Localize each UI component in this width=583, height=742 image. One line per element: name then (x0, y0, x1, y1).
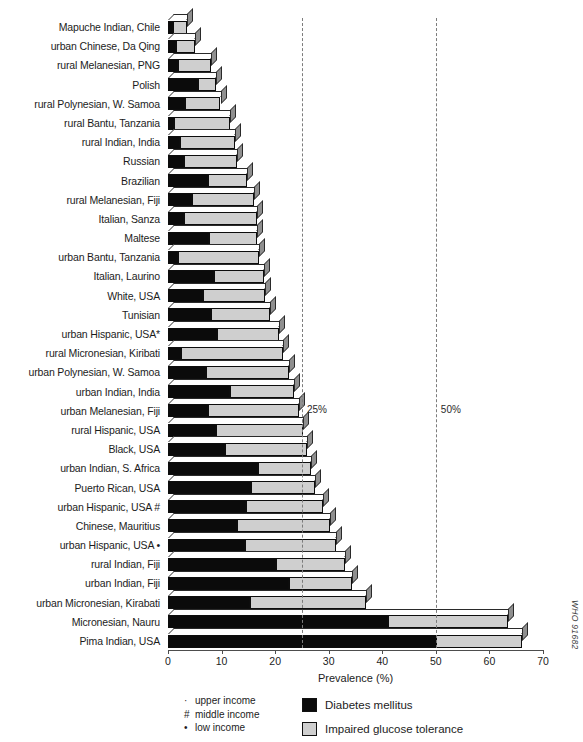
category-axis-labels: Mapuche Indian, Chileurban Chinese, Da Q… (0, 18, 164, 651)
x-tick-label: 40 (376, 655, 388, 667)
bar-top-face (168, 590, 372, 596)
bar-top-face (168, 340, 289, 346)
bar-segment-diabetes (168, 500, 246, 513)
x-tick (329, 650, 330, 654)
category-label: Italian, Sanza (0, 210, 164, 229)
chart-row (168, 18, 568, 37)
bar-segment-diabetes (168, 40, 176, 53)
bar-top-face (168, 283, 271, 289)
bar-segment-igt (185, 97, 220, 110)
category-label: urban Micronesian, Kirabati (0, 594, 164, 613)
bar-top-face (168, 532, 342, 538)
category-label: urban Hispanic, USA • (0, 536, 164, 555)
series-legend: Diabetes mellitusImpaired glucose tolera… (302, 693, 463, 741)
stacked-bar (168, 251, 259, 264)
reference-line-label: 25% (307, 404, 327, 415)
bar-segment-igt (203, 289, 265, 302)
x-tick-label: 0 (165, 655, 171, 667)
x-tick-label: 50 (430, 655, 442, 667)
bar-top-face (168, 398, 305, 404)
bar-segment-diabetes (168, 270, 214, 283)
bar-top-face (168, 264, 270, 270)
bar-right-face (257, 219, 263, 238)
stacked-bar (168, 155, 237, 168)
bar-segment-igt (192, 193, 254, 206)
bar-segment-igt (184, 155, 237, 168)
category-label: Chinese, Mauritius (0, 517, 164, 536)
bar-top-face (168, 91, 227, 97)
bar-top-face (168, 475, 321, 481)
stacked-bar (168, 289, 265, 302)
bar-top-face (168, 321, 285, 327)
income-legend-label: middle income (195, 709, 259, 720)
bar-segment-igt (230, 385, 294, 398)
bar-segment-diabetes (168, 347, 181, 360)
bar-segment-igt (176, 40, 195, 53)
bar-top-face (168, 225, 263, 231)
category-label: rural Micronesian, Kiribati (0, 344, 164, 363)
category-label: rural Melanesian, PNG (0, 56, 164, 75)
bar-top-face (168, 379, 300, 385)
x-tick-label: 30 (323, 655, 335, 667)
stacked-bar (168, 21, 187, 34)
bar-top-face (168, 149, 243, 155)
stacked-bar (168, 443, 307, 456)
x-axis-line (168, 650, 543, 651)
income-legend-item: ·upper income (184, 694, 259, 708)
reference-line-50 (436, 18, 437, 648)
category-label: Polish (0, 76, 164, 95)
bar-segment-diabetes (168, 443, 225, 456)
stacked-bar (168, 59, 211, 72)
stacked-bar (168, 615, 508, 628)
bar-top-face (168, 417, 309, 423)
x-tick (543, 650, 544, 654)
bar-segment-igt (209, 232, 257, 245)
category-label: rural Melanesian, Fiji (0, 191, 164, 210)
stacked-bar (168, 232, 257, 245)
category-label: rural Bantu, Tanzania (0, 114, 164, 133)
stacked-bar (168, 404, 299, 417)
bar-right-face (235, 123, 241, 142)
category-label: urban Indian, S. Africa (0, 459, 164, 478)
bar-segment-igt (184, 212, 257, 225)
stacked-bar (168, 558, 345, 571)
category-label: Puerto Rican, USA (0, 479, 164, 498)
chart-row (168, 56, 568, 75)
reference-line-label: 50% (441, 404, 461, 415)
stacked-bar (168, 308, 270, 321)
stacked-bar (168, 385, 294, 398)
bar-segment-igt (225, 443, 307, 456)
who-code-label: WHO 91682 (570, 600, 580, 649)
category-label: Pima Indian, USA (0, 632, 164, 651)
income-legend-symbol: • (184, 721, 195, 735)
bar-segment-igt (217, 328, 279, 341)
legend-swatch (302, 722, 317, 736)
stacked-bar (168, 424, 303, 437)
bar-segment-diabetes (168, 385, 230, 398)
bar-segment-igt (388, 615, 509, 628)
bar-segment-diabetes (168, 212, 184, 225)
bar-top-face (168, 513, 336, 519)
bar-segment-igt (173, 21, 187, 34)
legend-swatch (302, 698, 317, 712)
x-axis: 010203040506070 (168, 650, 568, 651)
stacked-bar (168, 596, 366, 609)
bar-top-face (168, 609, 514, 615)
income-legend-label: upper income (195, 695, 256, 706)
income-legend-label: low income (195, 722, 245, 733)
category-label: Russian (0, 152, 164, 171)
category-label: urban Indian, India (0, 383, 164, 402)
income-legend-item: •low income (184, 721, 259, 735)
bar-segment-diabetes (168, 155, 184, 168)
stacked-bar (168, 366, 289, 379)
bar-top-face (168, 110, 236, 116)
bar-top-face (168, 571, 358, 577)
bar-segment-igt (181, 347, 283, 360)
bar-segment-igt (216, 424, 303, 437)
bar-top-face (168, 53, 217, 59)
category-label: Black, USA (0, 440, 164, 459)
bar-top-face (168, 360, 295, 366)
stacked-bar (168, 328, 279, 341)
series-legend-item: Diabetes mellitus (302, 693, 463, 717)
bar-segment-igt (180, 136, 235, 149)
